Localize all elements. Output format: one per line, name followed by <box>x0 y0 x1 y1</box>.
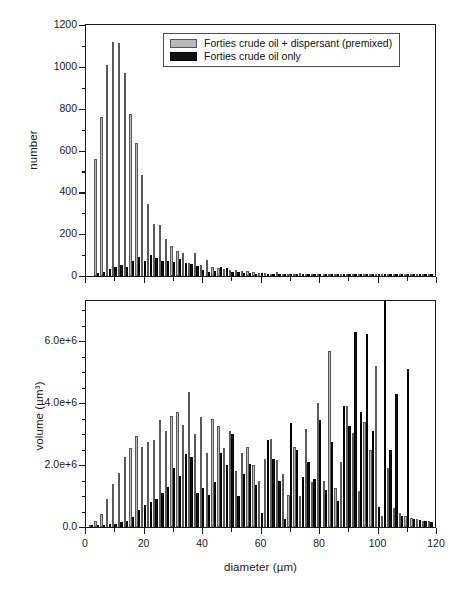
bar-oil-only <box>114 524 116 527</box>
axis-tick <box>85 528 86 534</box>
bar-oil-only <box>419 274 421 276</box>
bar-oil-only <box>354 274 356 276</box>
bar-oil-only <box>155 258 157 276</box>
bar-oil-only <box>144 261 146 276</box>
bar-oil-only <box>296 274 298 276</box>
bar-oil-only <box>120 522 122 527</box>
number-y-tick-label: 1200 <box>29 18 77 30</box>
diameter-x-tick-label: 120 <box>416 537 456 549</box>
bar-oil-only <box>413 519 415 527</box>
bar-oil-only <box>389 274 391 276</box>
bar-oil-only <box>395 274 397 276</box>
bar-oil-only <box>302 274 304 276</box>
axis-tick <box>290 528 291 532</box>
bar-oil-only <box>307 274 309 276</box>
axis-tick <box>231 277 232 281</box>
bar-oil-only <box>366 274 368 276</box>
number-y-tick-label: 1000 <box>29 60 77 72</box>
axis-tick <box>436 528 437 534</box>
axis-tick <box>82 46 86 47</box>
bar-oil-only <box>138 510 140 527</box>
bar-oil-only <box>284 519 286 527</box>
bar-oil-only <box>226 465 228 527</box>
axis-tick <box>319 528 320 534</box>
axis-tick <box>114 277 115 281</box>
bar-oil-only <box>424 274 426 276</box>
axis-tick <box>202 528 203 534</box>
bar-oil-only <box>97 273 99 276</box>
bar-oil-only <box>138 257 140 276</box>
axis-tick <box>79 234 85 235</box>
bar-oil-only <box>302 477 304 527</box>
legend: Forties crude oil + dispersant (premixed… <box>163 33 400 67</box>
axis-tick <box>82 130 86 131</box>
bar-dispersant <box>135 143 137 276</box>
legend-swatch-gray <box>170 39 197 48</box>
axis-tick <box>173 528 174 532</box>
bar-oil-only <box>214 482 216 527</box>
bar-oil-only <box>389 450 391 527</box>
bar-oil-only <box>231 272 233 276</box>
bar-oil-only <box>185 454 187 527</box>
bar-oil-only <box>120 265 122 277</box>
diameter-x-tick-label: 0 <box>65 537 105 549</box>
number-y-axis-title: number <box>27 110 39 190</box>
bar-oil-only <box>278 274 280 277</box>
bar-oil-only <box>401 274 403 276</box>
bar-dispersant <box>124 457 126 527</box>
bar-oil-only <box>231 434 233 527</box>
bar-oil-only <box>243 474 245 527</box>
bar-oil-only <box>395 394 397 527</box>
bar-oil-only <box>155 499 157 527</box>
bar-dispersant <box>118 43 120 276</box>
bar-oil-only <box>144 505 146 527</box>
axis-tick <box>82 388 86 389</box>
axis-tick <box>82 213 86 214</box>
axis-tick <box>202 277 203 283</box>
bar-oil-only <box>114 267 116 276</box>
bar-dispersant <box>118 473 120 527</box>
bar-oil-only <box>161 493 163 527</box>
bar-oil-only <box>202 270 204 276</box>
bar-oil-only <box>337 501 339 527</box>
bar-oil-only <box>325 274 327 276</box>
axis-tick <box>378 528 379 534</box>
bar-oil-only <box>173 262 175 276</box>
bar-oil-only <box>360 274 362 276</box>
bar-oil-only <box>208 272 210 276</box>
bar-oil-only <box>348 274 350 276</box>
bar-oil-only <box>190 457 192 527</box>
bar-dispersant <box>124 73 126 276</box>
bar-oil-only <box>337 274 339 276</box>
bar-dispersant <box>106 499 108 527</box>
bar-oil-only <box>237 496 239 527</box>
axis-tick <box>85 277 86 283</box>
axis-tick <box>144 277 145 283</box>
bar-dispersant <box>94 159 96 276</box>
bar-oil-only <box>407 274 409 276</box>
bar-dispersant <box>375 366 377 527</box>
bar-oil-only <box>331 442 333 527</box>
volume-y-tick-label: 0.0 <box>21 520 77 532</box>
bar-oil-only <box>126 267 128 276</box>
bar-oil-only <box>372 274 374 276</box>
bar-oil-only <box>331 274 333 276</box>
diameter-x-tick-label: 60 <box>241 537 281 549</box>
bar-oil-only <box>354 332 356 527</box>
bar-oil-only <box>208 495 210 528</box>
axis-tick <box>82 372 86 373</box>
bar-oil-only <box>103 272 105 276</box>
bar-oil-only <box>103 525 105 527</box>
axis-tick <box>82 357 86 358</box>
bar-oil-only <box>290 274 292 276</box>
volume-y-axis-title: volume (µm³) <box>33 361 45 471</box>
axis-tick <box>82 434 86 435</box>
bar-oil-only <box>173 468 175 527</box>
bar-oil-only <box>132 261 134 276</box>
figure-caption <box>6 578 459 590</box>
axis-tick <box>378 277 379 283</box>
bar-oil-only <box>407 369 409 527</box>
axis-tick <box>231 528 232 532</box>
bar-dispersant <box>129 114 131 276</box>
axis-tick <box>436 277 437 283</box>
